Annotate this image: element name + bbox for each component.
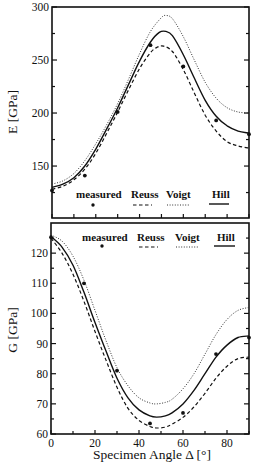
- measured-point: [50, 189, 54, 193]
- y-tick-label: 70: [37, 398, 49, 410]
- legend: measured Reuss Voigt Hill: [76, 188, 230, 207]
- y-tick-label: 120: [31, 247, 49, 259]
- y-tick-labels: 150200250300: [32, 1, 50, 172]
- measured-point: [247, 132, 251, 136]
- y-tick-label: 80: [37, 368, 49, 380]
- legend-hill-label: Hill: [212, 188, 230, 200]
- tick-labels: 60708090100110120020406080: [31, 247, 233, 449]
- series-hill-line: [52, 31, 249, 187]
- series-curves: [49, 235, 251, 428]
- measured-point: [149, 43, 153, 47]
- y-tick-label: 250: [32, 54, 50, 66]
- y-tick-label: 150: [32, 160, 50, 172]
- elastic-modulus-panel: 150200250300 E [GPa] measured Reuss Voig…: [5, 1, 251, 218]
- legend-measured-label: measured: [82, 231, 128, 243]
- legend-reuss-label: Reuss: [137, 231, 165, 243]
- series-voigt-line: [52, 15, 249, 184]
- legend-hill-label: Hill: [217, 231, 235, 243]
- legend-measured-marker: [91, 203, 94, 206]
- measured-point: [214, 352, 218, 356]
- legend-measured-label: measured: [76, 188, 122, 200]
- measured-point: [116, 110, 120, 114]
- legend-voigt-label: Voigt: [166, 188, 191, 200]
- measured-point: [115, 369, 119, 373]
- y-axis-label: G [GPa]: [5, 307, 20, 352]
- x-axis-label: Specimen Angle Δ [°]: [93, 447, 211, 462]
- series-reuss-line: [51, 238, 249, 428]
- legend-voigt-label: Voigt: [175, 231, 200, 243]
- measured-point: [181, 64, 185, 68]
- y-tick-label: 100: [31, 307, 49, 319]
- y-tick-label: 90: [37, 338, 49, 350]
- x-tick-label: 0: [48, 437, 54, 449]
- y-tick-label: 110: [31, 277, 48, 289]
- y-tick-label: 300: [32, 1, 50, 13]
- measured-point: [247, 336, 251, 340]
- legend-reuss-label: Reuss: [131, 188, 159, 200]
- y-tick-label: 60: [37, 428, 49, 440]
- chart-figure: 150200250300 E [GPa] measured Reuss Voig…: [0, 0, 255, 469]
- x-tick-label: 80: [221, 437, 233, 449]
- measured-point: [83, 174, 87, 178]
- measured-point: [148, 422, 152, 426]
- measured-point: [214, 119, 218, 123]
- axis-ticks: [51, 238, 249, 434]
- shear-modulus-panel: 60708090100110120020406080 G [GPa] Speci…: [5, 223, 251, 462]
- series-reuss-line: [52, 46, 249, 189]
- y-tick-label: 200: [32, 107, 50, 119]
- y-axis-label: E [GPa]: [5, 90, 20, 134]
- plot-frame: [51, 223, 249, 434]
- legend-measured-marker: [100, 244, 103, 247]
- measured-point: [49, 235, 53, 239]
- plot-frame: [52, 7, 249, 218]
- series-curves: [50, 15, 251, 192]
- series-voigt-line: [51, 235, 249, 404]
- measured-point: [181, 411, 185, 415]
- legend: measured Reuss Voigt Hill: [82, 231, 235, 248]
- measured-point: [82, 281, 86, 285]
- axis-ticks: [52, 7, 249, 218]
- series-hill-line: [51, 237, 249, 418]
